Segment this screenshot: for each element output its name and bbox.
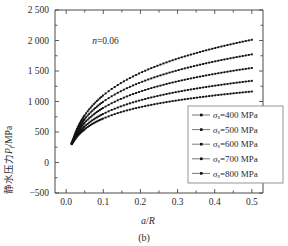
y-axis-title: 静水压力Pf/MPa	[3, 125, 15, 194]
chart-canvas: −50005001 0001 5002 0002 500 0.00.10.20.…	[0, 0, 288, 246]
y-tick-label: 1 000	[28, 97, 50, 107]
chart-legend: σs=400 MPaσs=500 MPaσs=600 MPaσs=700 MPa…	[188, 106, 283, 183]
x-tick-label: 0.1	[97, 197, 109, 207]
y-tick-label: 0	[44, 158, 49, 168]
legend-label: σs=400 MPa	[213, 110, 258, 120]
x-axis-title: a/R	[141, 215, 155, 226]
x-tick-label: 0.4	[209, 197, 221, 207]
figure-caption: (b)	[138, 232, 150, 244]
y-tick-label: 500	[35, 127, 50, 137]
legend-label: σs=700 MPa	[213, 154, 258, 164]
y-tick-label: −500	[29, 188, 49, 198]
x-tick-label: 0.3	[172, 197, 184, 207]
x-tick-label: 0.2	[134, 197, 146, 207]
y-axis-label-text: 静水压力Pf/MPa	[3, 125, 15, 194]
x-tick-label: 0.5	[246, 197, 258, 207]
chart-annotation: n=0.06	[92, 36, 119, 46]
figure-container: −50005001 0001 5002 0002 500 0.00.10.20.…	[0, 0, 288, 246]
y-tick-label: 2 000	[28, 36, 50, 46]
x-tick-label: 0.0	[60, 197, 72, 207]
legend-label: σs=800 MPa	[213, 169, 258, 179]
legend-label: σs=500 MPa	[213, 125, 258, 135]
legend-label: σs=600 MPa	[213, 139, 258, 149]
y-tick-label: 1 500	[28, 66, 50, 76]
y-tick-label: 2 500	[28, 5, 50, 15]
svg-text:a/R: a/R	[141, 215, 155, 226]
